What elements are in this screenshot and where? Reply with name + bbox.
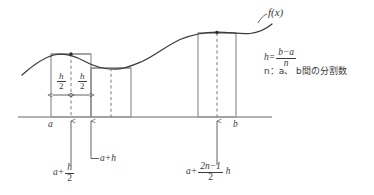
callout-prefix: a+ [186, 167, 197, 177]
fraction-denominator: 2 [65, 174, 74, 184]
callout-label-last-midpoint: a+ 2n−1 2 h [186, 162, 231, 182]
fraction-denominator: 2 [206, 173, 215, 183]
dimension-label-half-step-right: h 2 [77, 72, 88, 91]
axis-label-a: a [48, 120, 53, 130]
curve-label-fx: f(x) [268, 7, 283, 18]
callout-suffix: h [226, 167, 231, 177]
callout-prefix: a+ [53, 168, 64, 178]
formula-note-divisions: n：a、 b間の分割数 [264, 67, 347, 76]
callout-label-first-gridline: a+h [100, 154, 116, 164]
fraction-h-over-2-left: h 2 [57, 72, 66, 91]
leader-line-fx [258, 14, 267, 23]
midpoint-dot-1 [69, 52, 72, 55]
leader-line-a-plus-h [91, 155, 99, 159]
figure-root: f(x) a b h 2 h 2 a+ h 2 a+h a+ 2n−1 2 h [0, 0, 374, 195]
function-curve [22, 24, 272, 75]
midpoint-dashed-lines [71, 33, 217, 117]
formula-lhs: h= [264, 53, 275, 63]
dimension-label-half-step-left: h 2 [56, 72, 67, 91]
fraction-h-over-2-callout: h 2 [65, 163, 74, 183]
fraction-denominator: 2 [78, 82, 87, 91]
callout-label-first-midpoint: a+ h 2 [53, 163, 75, 183]
fraction-denominator: 2 [57, 82, 66, 91]
axis-label-b: b [233, 120, 238, 130]
fraction-h-over-2-right: h 2 [78, 72, 87, 91]
fraction-2n-1-over-2: 2n−1 2 [198, 162, 223, 182]
midpoint-dot-2 [215, 31, 218, 34]
